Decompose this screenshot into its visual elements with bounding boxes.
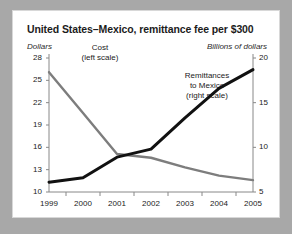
right-axis-tick-label: 20 xyxy=(259,53,275,62)
chart-figure: United States–Mexico, remittance fee per… xyxy=(12,10,280,218)
left-axis-tick-label: 25 xyxy=(26,75,42,84)
left-axis-tick-label: 28 xyxy=(26,53,42,62)
plot-area xyxy=(13,11,281,219)
x-axis-tick-label: 2000 xyxy=(68,199,98,208)
x-axis-tick-label: 2001 xyxy=(102,199,132,208)
left-axis-tick-label: 13 xyxy=(26,165,42,174)
left-axis-tick-label: 10 xyxy=(26,187,42,196)
x-axis-tick-label: 2003 xyxy=(170,199,200,208)
right-axis-tick-label: 5 xyxy=(259,187,275,196)
right-axis-tick-label: 10 xyxy=(259,142,275,151)
left-axis-tick-label: 22 xyxy=(26,98,42,107)
right-axis-tick-label: 15 xyxy=(259,98,275,107)
left-axis-tick-label: 19 xyxy=(26,120,42,129)
series-line-remittances xyxy=(49,70,253,183)
x-axis-tick-label: 2004 xyxy=(204,199,234,208)
series-line-cost xyxy=(49,72,253,180)
axes xyxy=(46,54,256,196)
x-axis-tick-label: 2002 xyxy=(136,199,166,208)
x-axis-tick-label: 2005 xyxy=(238,199,268,208)
data-series xyxy=(49,70,253,183)
left-axis-tick-label: 16 xyxy=(26,142,42,151)
x-axis-tick-label: 1999 xyxy=(34,199,64,208)
chart-svg xyxy=(13,11,281,219)
